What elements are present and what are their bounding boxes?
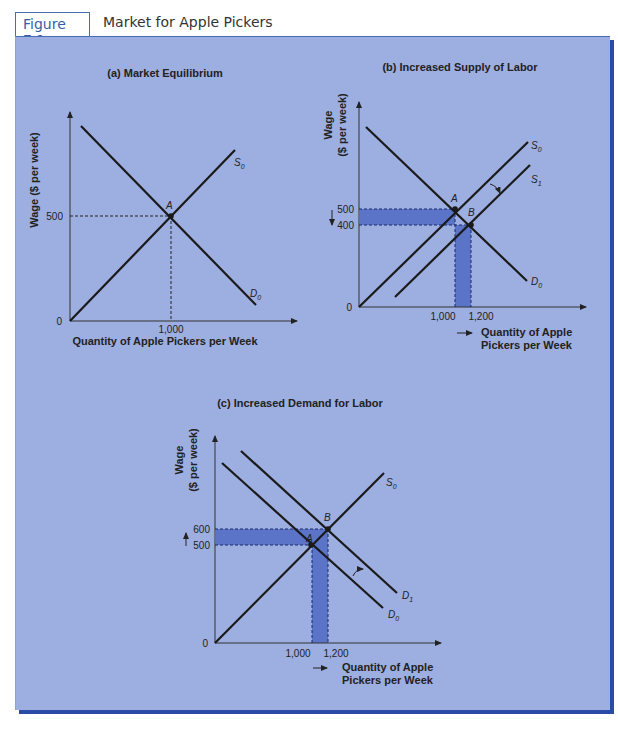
chart-a-title: (a) Market Equilibrium [107,67,223,79]
y-axis-label-line2: ($ per week) [187,428,199,492]
s0-label: S0 [531,140,542,153]
x-axis-label-line1: Quantity of Apple [481,326,572,338]
d0-label: D0 [531,276,542,289]
supply-curve-s0 [70,150,235,321]
chart-increased-demand: (c) Increased Demand for Labor Wage ($ p… [173,397,441,686]
s0-label: S0 [386,477,397,490]
chart-increased-supply: (b) Increased Supply of Labor Wage ($ pe… [322,61,586,351]
x-axis-label-line2: Pickers per Week [342,674,434,686]
y-tick-500: 500 [337,204,354,215]
y-axis-label-line1: Wage [173,446,185,475]
demand-shift-arrow-icon [353,569,363,576]
x-axis-label-line2: Pickers per Week [481,339,573,351]
y-axis-label: Wage ($ per week) [28,132,40,228]
point-a [452,206,458,212]
chart-c-title: (c) Increased Demand for Labor [217,397,383,409]
point-a-label: A [305,533,313,544]
charts-canvas: (a) Market Equilibrium Wage ($ per week)… [0,0,618,737]
wage-change-band [360,209,455,225]
s1-label: S1 [531,174,542,187]
y-axis-label-line2: ($ per week) [336,93,348,157]
d1-label: D1 [402,590,413,603]
y-tick-600: 600 [193,524,210,535]
y-tick-500: 500 [46,211,63,222]
demand-curve-d0 [366,127,527,281]
x-tick-1000: 1,000 [285,648,310,659]
x-tick-1200: 1,200 [323,648,348,659]
point-b [468,222,474,228]
chart-b-title: (b) Increased Supply of Labor [382,61,538,73]
point-b-label: B [468,207,475,218]
x-axis-label: Quantity of Apple Pickers per Week [72,335,258,347]
point-b [325,526,331,532]
quantity-change-band [312,545,328,643]
origin-label: 0 [346,302,352,313]
origin-label: 0 [56,316,62,327]
equilibrium-point-a [168,213,174,219]
origin-label: 0 [202,638,208,649]
x-axis-label-line1: Quantity of Apple [342,661,433,673]
d0-label: D0 [388,609,399,622]
y-tick-500: 500 [193,540,210,551]
point-a-label: A [165,200,173,211]
y-axis-label-line1: Wage [322,111,334,140]
point-a-label: A [450,193,458,204]
supply-shift-arrow-icon [490,184,500,193]
y-tick-400: 400 [337,220,354,231]
point-b-label: B [324,512,331,523]
x-tick-1000: 1,000 [430,311,455,322]
x-tick-1200: 1,200 [468,311,493,322]
x-tick-1000: 1,000 [158,324,183,335]
chart-market-equilibrium: (a) Market Equilibrium Wage ($ per week)… [28,67,297,347]
s0-label: S0 [234,157,245,170]
